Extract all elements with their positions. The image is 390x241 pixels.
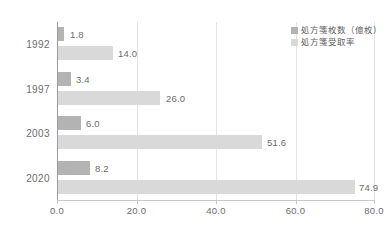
x-axis-tick-mark: [216, 200, 217, 204]
bar-row-prescriptions-2020: 8.2: [57, 161, 375, 175]
x-axis-tick-mark: [57, 200, 58, 204]
y-axis-tick-label-2020: 2020: [0, 173, 50, 184]
bar-prescriptions-1992[interactable]: [57, 27, 64, 41]
x-axis-tick-label-40: 40.0: [194, 205, 238, 216]
x-axis-tick-label-60: 60.0: [274, 205, 318, 216]
bar-row-prescriptions-2003: 6.0: [57, 116, 375, 130]
y-axis-tick-label-1992: 1992: [0, 39, 50, 50]
bar-row-rate-1992: 14.0: [57, 46, 375, 60]
bar-group-1997: 3.4 26.0: [57, 67, 375, 112]
bar-rate-1997[interactable]: [57, 91, 160, 105]
bar-row-rate-2003: 51.6: [57, 135, 375, 149]
x-axis-tick-label-0: 0.0: [35, 205, 79, 216]
bar-value-label: 1.8: [70, 29, 84, 40]
bar-group-2003: 6.0 51.6: [57, 111, 375, 156]
y-axis-line: [57, 22, 58, 200]
bar-prescriptions-2003[interactable]: [57, 116, 81, 130]
bar-group-2020: 8.2 74.9: [57, 156, 375, 201]
legend-swatch-icon: [291, 39, 298, 46]
bar-value-label: 74.9: [359, 181, 378, 192]
bar-value-label: 3.4: [76, 73, 90, 84]
x-axis-tick-label-20: 20.0: [115, 205, 159, 216]
x-axis-tick-mark: [137, 200, 138, 204]
legend-item-prescriptions[interactable]: 処方箋枚数（億枚）: [291, 25, 382, 35]
plot-area: 1.8 14.0 3.4 26.0 6.0: [57, 22, 375, 200]
bar-value-label: 6.0: [86, 118, 100, 129]
legend-item-rate[interactable]: 処方箋受取率: [291, 37, 382, 47]
bar-rate-2020[interactable]: [57, 180, 355, 194]
bar-rate-2003[interactable]: [57, 135, 262, 149]
bar-value-label: 51.6: [267, 137, 286, 148]
x-axis-tick-mark: [296, 200, 297, 204]
bar-value-label: 14.0: [118, 48, 137, 59]
bar-rate-1992[interactable]: [57, 46, 113, 60]
x-axis-tick-mark: [374, 200, 375, 204]
legend-label: 処方箋受取率: [301, 37, 355, 47]
bar-prescriptions-1997[interactable]: [57, 72, 71, 86]
bar-row-rate-1997: 26.0: [57, 91, 375, 105]
y-axis-tick-label-1997: 1997: [0, 84, 50, 95]
bar-prescriptions-2020[interactable]: [57, 161, 90, 175]
bar-row-prescriptions-1997: 3.4: [57, 72, 375, 86]
bar-chart: 1.8 14.0 3.4 26.0 6.0: [0, 0, 390, 241]
chart-legend: 処方箋枚数（億枚） 処方箋受取率: [291, 25, 382, 47]
bar-value-label: 8.2: [95, 162, 109, 173]
x-axis-tick-label-80: 80.0: [352, 205, 390, 216]
legend-label: 処方箋枚数（億枚）: [301, 25, 382, 35]
legend-swatch-icon: [291, 27, 298, 34]
bar-value-label: 26.0: [166, 92, 185, 103]
y-axis-tick-label-2003: 2003: [0, 128, 50, 139]
bar-row-rate-2020: 74.9: [57, 180, 375, 194]
